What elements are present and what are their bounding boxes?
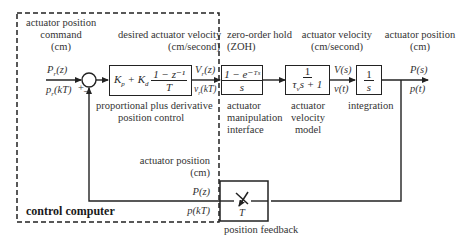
pd-title: desired actuator velocity (cm/second) bbox=[118, 29, 220, 53]
pd-controller-block: Kp + Kd 1 − z⁻¹ T bbox=[109, 65, 192, 96]
velocity-model-block: 1 τvs + 1 bbox=[285, 65, 330, 95]
zoh-block: 1 − e⁻ᵀˢ s bbox=[221, 65, 263, 95]
feedback-path-right bbox=[271, 80, 401, 201]
zoh-title: zero-order hold (ZOH) bbox=[227, 29, 292, 53]
sampler-period-label: T bbox=[239, 207, 245, 219]
integrator-caption: integration bbox=[348, 100, 394, 112]
pd-caption: proportional plus derivative position co… bbox=[96, 100, 206, 124]
feedback-signal-z: P(z) bbox=[170, 186, 210, 198]
pd-output-t: vr(kT) bbox=[194, 83, 216, 99]
integrator-block: 1 s bbox=[356, 65, 382, 95]
pd-output-z: Vr(z) bbox=[195, 64, 215, 80]
velocity-caption: actuator velocity model bbox=[285, 100, 331, 136]
velocity-output-s: V(s) bbox=[334, 64, 352, 76]
feedback-caption: position feedback bbox=[224, 224, 298, 236]
output-signal-t: p(t) bbox=[410, 83, 425, 95]
sum-minus-sign: – bbox=[84, 85, 89, 97]
velocity-title: actuator velocity (cm/second) bbox=[300, 29, 374, 53]
output-signal-s: P(s) bbox=[410, 64, 428, 76]
zoh-caption: actuator manipulation interface bbox=[227, 100, 282, 136]
output-title: actuator position (cm) bbox=[380, 29, 460, 53]
feedback-signal-t: p(kT) bbox=[170, 205, 210, 217]
input-title: actuator position command (cm) bbox=[26, 17, 96, 53]
velocity-output-t: v(t) bbox=[334, 83, 349, 95]
input-signal-t: pr(kT) bbox=[46, 84, 71, 100]
control-computer-label: control computer bbox=[26, 205, 115, 217]
feedback-title: actuator position (cm) bbox=[120, 155, 210, 179]
input-signal-z: Pr(z) bbox=[47, 64, 67, 80]
